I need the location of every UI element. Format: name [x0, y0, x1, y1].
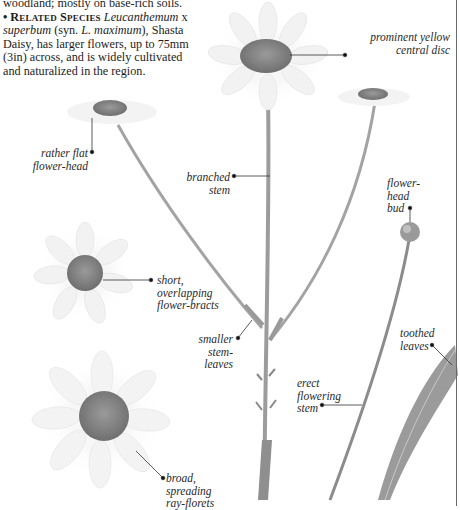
label-flower-bracts: short, overlapping flower-bracts: [157, 274, 237, 312]
label-toothed-leaves: toothed leaves: [400, 327, 450, 352]
label-branched-stem: branched stem: [180, 171, 230, 196]
label-stem-leaves: smaller stem-leaves: [180, 333, 233, 371]
side-flower-head: [338, 88, 410, 106]
label-ray-florets: broad, spreading ray-florets: [166, 472, 236, 510]
label-erect-stem: erect flowering stem: [297, 377, 357, 415]
toothed-leaf: [378, 345, 458, 500]
label-central-disc: prominent yellow central disc: [340, 31, 450, 56]
flat-flower-head: [67, 100, 157, 124]
label-flat-flower-head: rather flat flower-head: [20, 147, 88, 172]
bract-view-flower: [33, 222, 134, 326]
page-margin-rule: [456, 0, 457, 506]
main-flower-head: [207, 2, 330, 110]
label-flower-head-bud: flower- head bud: [387, 177, 427, 215]
ray-floret-flower: [31, 351, 171, 488]
